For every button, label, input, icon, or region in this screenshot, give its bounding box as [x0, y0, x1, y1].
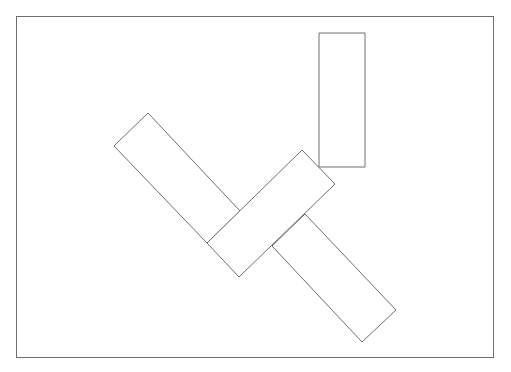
upright-rectangle — [319, 33, 365, 167]
diagram-frame — [17, 17, 494, 358]
diagram-canvas — [0, 0, 511, 372]
